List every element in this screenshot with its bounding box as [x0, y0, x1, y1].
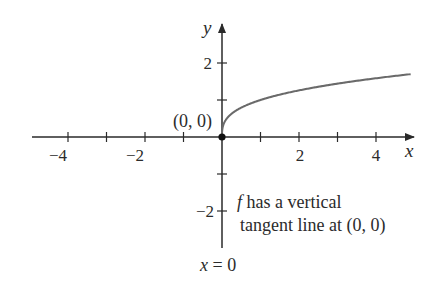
y-axis-label: y	[201, 17, 212, 38]
origin-point-label: (0, 0)	[173, 111, 212, 132]
vertical-line-label-rest: = 0	[208, 255, 236, 275]
function-curve	[222, 74, 411, 137]
annotation-line-1: f has a vertical	[237, 192, 341, 212]
x-tick-label-4: 4	[372, 146, 381, 165]
origin-point	[218, 133, 225, 140]
y-tick-label-neg2: −2	[196, 202, 214, 221]
x-tick-label-neg2: −2	[126, 146, 144, 165]
annotation-line-1-text: has a vertical	[242, 192, 341, 212]
annotation-line-2: tangent line at (0, 0)	[240, 215, 385, 236]
y-tick-label-2: 2	[204, 54, 213, 73]
vertical-line-label: x = 0	[199, 255, 236, 275]
x-axis-label: x	[404, 140, 414, 161]
chart-canvas: −4 −2 2 4 2 −2 x y (0, 0) f has a vertic…	[0, 0, 442, 292]
x-tick-label-2: 2	[296, 146, 305, 165]
vertical-line-label-var: x	[199, 255, 208, 275]
x-tick-label-neg4: −4	[49, 146, 68, 165]
